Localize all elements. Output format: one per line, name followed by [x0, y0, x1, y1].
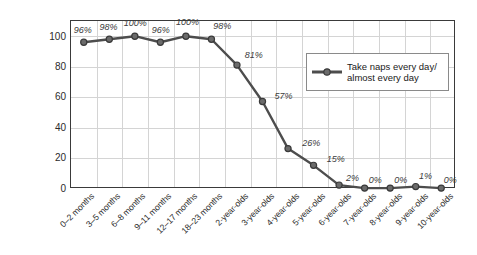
data-point-label: 96%: [152, 25, 170, 35]
data-point-marker: [132, 33, 138, 39]
data-point-label: 0%: [444, 175, 457, 185]
data-point-label: 0%: [394, 175, 407, 185]
data-point-label: 100%: [176, 17, 199, 27]
data-point-marker: [259, 98, 265, 104]
data-point-label: 0%: [369, 175, 382, 185]
y-tick-20: 20: [38, 152, 66, 163]
data-point-marker: [234, 62, 240, 68]
data-point-label: 2%: [346, 173, 359, 183]
data-point-marker: [310, 162, 316, 168]
y-tick-60: 60: [38, 91, 66, 102]
data-point-marker: [285, 146, 291, 152]
data-point-marker: [183, 33, 189, 39]
data-point-marker: [208, 36, 214, 42]
y-tick-100: 100: [38, 31, 66, 42]
data-point-label: 100%: [124, 18, 147, 28]
x-axis-tick-labels: 0–2 months3–5 months6–8 months9–11 month…: [70, 189, 455, 255]
data-point-label: 98%: [213, 21, 231, 31]
data-point-label: 81%: [245, 50, 263, 60]
legend-line-swatch: [312, 66, 342, 78]
plot-area: 96%98%100%96%100%98%81%57%26%15%2%0%0%1%…: [70, 20, 455, 188]
data-point-label: 26%: [302, 138, 320, 148]
chart-page: Percentage of respondents 100 80 60 40 2…: [0, 0, 477, 255]
y-tick-80: 80: [38, 61, 66, 72]
y-tick-40: 40: [38, 122, 66, 133]
data-point-label: 98%: [99, 22, 117, 32]
data-point-marker: [81, 39, 87, 45]
data-point-label: 96%: [74, 25, 92, 35]
legend: Take naps every day/ almost every day: [306, 53, 449, 91]
data-point-label: 57%: [274, 91, 292, 101]
y-tick-0: 0: [38, 183, 66, 194]
data-point-label: 1%: [419, 171, 432, 181]
legend-label: Take naps every day/ almost every day: [347, 61, 437, 84]
data-point-label: 15%: [327, 154, 345, 164]
data-point-marker: [336, 182, 342, 188]
line-series: [71, 21, 454, 188]
data-point-marker: [157, 39, 163, 45]
data-point-marker: [106, 36, 112, 42]
